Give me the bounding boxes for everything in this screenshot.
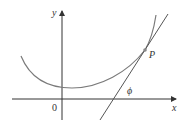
point-p-label: P: [148, 49, 155, 60]
angle-phi-label: ϕ: [127, 85, 132, 96]
diagram-canvas: y x 0 P ϕ: [0, 0, 186, 123]
curve: [21, 15, 156, 88]
tangent-line: [100, 14, 168, 120]
x-axis-label: x: [171, 102, 177, 113]
y-axis-label: y: [51, 7, 57, 18]
origin-label: 0: [52, 102, 57, 113]
point-p-marker: [143, 48, 147, 52]
tangent-line-diagram: y x 0 P ϕ: [0, 0, 186, 123]
